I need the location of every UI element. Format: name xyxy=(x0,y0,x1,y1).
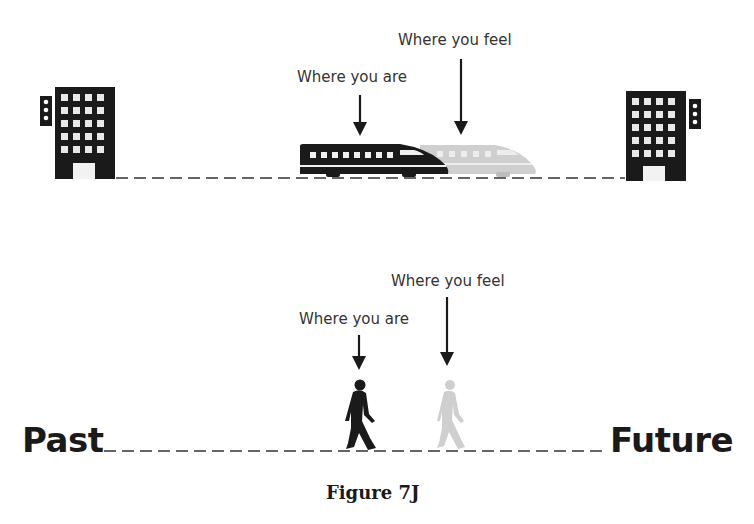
figure-caption: Figure 7J xyxy=(326,482,420,503)
label-where-you-feel: Where you feel xyxy=(391,272,505,290)
arrow-down-icon xyxy=(0,0,754,524)
label-where-you-are: Where you are xyxy=(299,310,409,328)
